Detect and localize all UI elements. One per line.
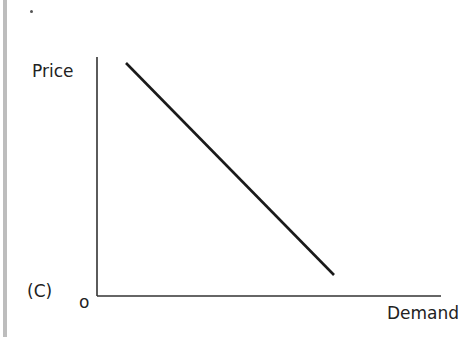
chart-canvas: [0, 0, 468, 337]
demand-curve: [126, 63, 334, 275]
